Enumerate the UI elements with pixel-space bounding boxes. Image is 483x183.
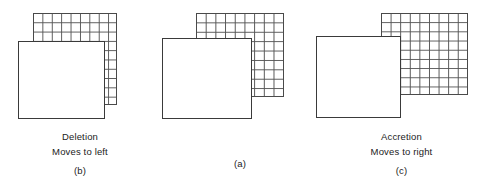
panel-c: Accretion Moves to right (c)	[320, 0, 483, 183]
panel-a-label: (a)	[160, 156, 320, 171]
panel-a: (a)	[160, 0, 320, 183]
plain-square-b	[18, 41, 105, 119]
plain-square-a	[162, 38, 252, 119]
figure-three-panel-diagram: Deletion Moves to left (b) (a) Accretion…	[0, 0, 483, 183]
panel-b: Deletion Moves to left (b)	[0, 0, 160, 183]
plain-square-c	[316, 36, 401, 118]
panel-b-caption-line-2: Moves to left	[0, 144, 160, 159]
panel-c-caption-line-1: Accretion	[320, 129, 483, 144]
panel-b-label: (b)	[0, 163, 160, 178]
panel-c-caption-line-2: Moves to right	[320, 144, 483, 159]
panel-c-label: (c)	[320, 163, 483, 178]
panel-b-caption-line-1: Deletion	[0, 129, 160, 144]
